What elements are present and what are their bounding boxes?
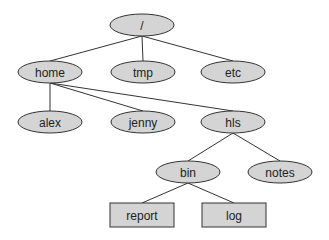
node-label: notes [265,166,294,180]
node-label: bin [180,166,196,180]
node-bin: bin [156,161,220,183]
node-report: report [110,203,174,227]
node-label: etc [225,66,241,80]
edge-bin-report [142,183,188,203]
node-label: report [126,209,158,223]
node-jenny: jenny [111,111,175,133]
node-label: alex [39,116,61,130]
node-notes: notes [248,161,312,183]
directory-tree-diagram: /hometmpetcalexjennyhlsbinnotesreportlog [0,0,329,240]
edge-root-etc [142,36,233,61]
edge-home-hls [50,83,233,111]
edge-hls-bin [188,133,233,161]
edge-root-tmp [142,36,143,61]
node-tmp: tmp [111,61,175,83]
node-home: home [18,61,82,83]
edge-home-jenny [50,83,143,111]
edge-hls-notes [233,133,280,161]
node-label: home [35,66,65,80]
nodes-layer: /hometmpetcalexjennyhlsbinnotesreportlog [18,14,312,227]
node-etc: etc [201,61,265,83]
node-hls: hls [201,111,265,133]
node-log: log [202,203,266,227]
edge-root-home [50,36,142,61]
node-root: / [110,14,174,36]
node-alex: alex [18,111,82,133]
edge-bin-log [188,183,234,203]
node-label: tmp [133,66,153,80]
node-label: log [226,209,242,223]
node-label: hls [225,116,240,130]
node-label: jenny [128,116,158,130]
